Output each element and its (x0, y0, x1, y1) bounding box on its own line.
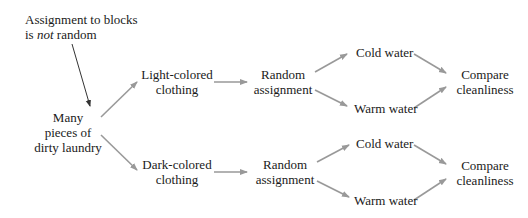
treatment-cold-water-1: Cold water (356, 45, 413, 60)
outcome-line-2: cleanliness (452, 82, 518, 97)
arrow-random1-to-warm (315, 90, 347, 106)
arrow-random1-to-cold (315, 54, 347, 72)
assignment-line-1: Random (250, 67, 316, 82)
arrow-random2-to-warm (317, 181, 349, 197)
outcome-line-1: Compare (452, 67, 518, 82)
treatment-label: Cold water (356, 45, 413, 60)
random-assignment-1: Random assignment (250, 67, 316, 97)
arrow-cold2-to-compare (414, 145, 446, 164)
block-label-line-2: clothing (140, 82, 214, 97)
outcome-line-2: cleanliness (452, 173, 518, 188)
block-label-line-2: clothing (140, 172, 214, 187)
block-label-line-1: Dark-colored (140, 157, 214, 172)
arrow-cold1-to-compare (414, 54, 446, 73)
block-dark-colored: Dark-colored clothing (140, 157, 214, 187)
note-suffix: random (54, 27, 97, 42)
note-line-2: is not random (25, 27, 138, 42)
compare-cleanliness-2: Compare cleanliness (452, 158, 518, 188)
arrow-warm2-to-compare (414, 179, 446, 200)
block-label-line-1: Light-colored (140, 67, 214, 82)
source-line-2: pieces of (32, 125, 104, 140)
assignment-line-2: assignment (252, 172, 318, 187)
outcome-line-1: Compare (452, 158, 518, 173)
arrow-warm1-to-compare (414, 87, 446, 108)
source-node: Many pieces of dirty laundry (32, 110, 104, 155)
note-italic: not (37, 27, 54, 42)
compare-cleanliness-1: Compare cleanliness (452, 67, 518, 97)
assignment-line-2: assignment (250, 82, 316, 97)
block-light-colored: Light-colored clothing (140, 67, 214, 97)
treatment-warm-water-1: Warm water (354, 101, 418, 116)
treatment-label: Cold water (356, 136, 413, 151)
arrow-source-to-light (101, 82, 137, 117)
treatment-label: Warm water (354, 101, 418, 116)
note-assignment-not-random: Assignment to blocks is not random (25, 12, 138, 42)
arrow-source-to-dark (101, 135, 137, 170)
treatment-cold-water-2: Cold water (356, 136, 413, 151)
source-line-1: Many (32, 110, 104, 125)
source-line-3: dirty laundry (32, 140, 104, 155)
random-assignment-2: Random assignment (252, 157, 318, 187)
assignment-line-1: Random (252, 157, 318, 172)
note-arrow (72, 44, 90, 106)
treatment-label: Warm water (354, 193, 418, 208)
note-prefix: is (25, 27, 37, 42)
note-line-1: Assignment to blocks (25, 12, 138, 27)
arrow-random2-to-cold (317, 145, 349, 162)
treatment-warm-water-2: Warm water (354, 193, 418, 208)
block-design-diagram: Assignment to blocks is not random Many … (0, 0, 528, 218)
